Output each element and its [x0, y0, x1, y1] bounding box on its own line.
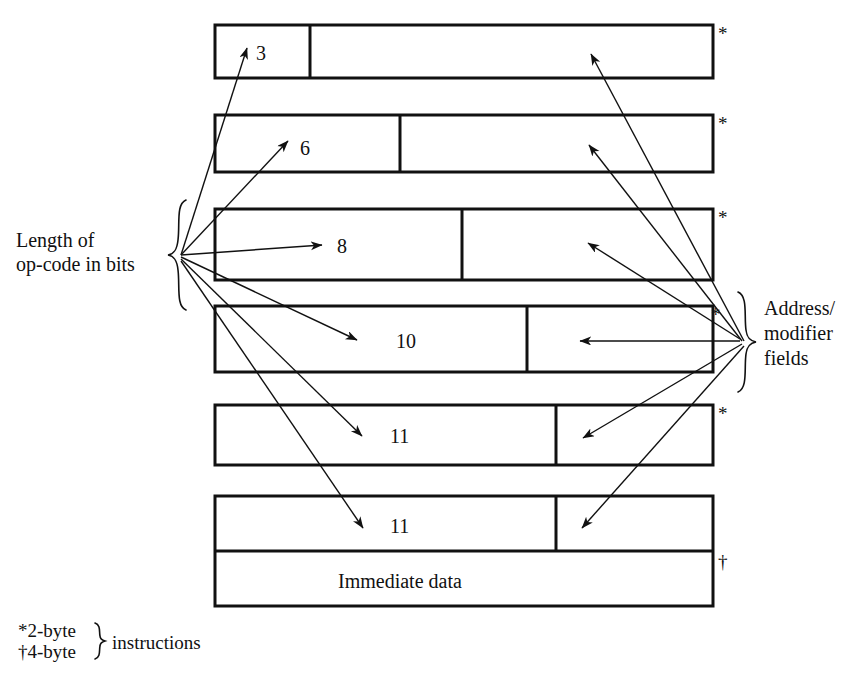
row-3-marker: *	[718, 207, 728, 228]
row-5-opcode-bits: 11	[390, 425, 409, 447]
opcode-length-label-line2: op-code in bits	[16, 252, 178, 276]
legend-two-byte-marker: *	[18, 620, 28, 641]
address-modifier-brace	[738, 292, 756, 392]
legend-instructions-label: instructions	[112, 632, 201, 654]
instruction-row-6: 11 Immediate data †	[215, 496, 728, 606]
instruction-row-2: 6 *	[215, 113, 728, 172]
legend-four-byte-marker: †	[18, 641, 28, 662]
address-modifier-label-line1: Address/	[764, 296, 862, 321]
row-3-box	[215, 209, 713, 280]
legend-two-byte-text: 2-byte	[28, 620, 77, 641]
row-2-marker: *	[718, 113, 728, 134]
row-6-immediate-data-label: Immediate data	[338, 570, 462, 592]
row-2-opcode-bits: 6	[300, 137, 310, 159]
instruction-row-5: 11 *	[215, 403, 728, 465]
row-3-opcode-bits: 8	[337, 235, 347, 257]
address-modifier-label-line2: modifier	[764, 321, 862, 346]
row-4-opcode-bits: 10	[396, 330, 416, 352]
legend-brace	[95, 623, 105, 659]
row-6-opcode-bits: 11	[390, 515, 409, 537]
address-modifier-label: Address/ modifier fields	[764, 296, 862, 370]
row-1-marker: *	[718, 23, 728, 44]
row-1-opcode-bits: 3	[256, 42, 266, 64]
legend-four-byte-line: †4-byte	[18, 641, 76, 662]
legend-two-byte-line: *2-byte	[18, 620, 76, 641]
instruction-row-1: 3 *	[215, 23, 728, 78]
legend-four-byte-text: 4-byte	[28, 641, 77, 662]
instruction-row-4: 10 *	[215, 304, 721, 372]
instruction-row-3: 8 *	[215, 207, 728, 280]
opcode-length-label: Length of op-code in bits	[16, 228, 178, 277]
diagram-canvas: 3 * 6 * 8 * 10 * 11 *	[0, 0, 863, 679]
row-1-box	[215, 25, 713, 78]
row-5-box	[215, 405, 713, 465]
row-5-marker: *	[718, 403, 728, 424]
leader-to-row-1-field	[591, 54, 744, 341]
legend-byte-lines: *2-byte †4-byte	[18, 620, 76, 663]
row-6-marker: †	[718, 551, 728, 572]
opcode-length-label-line1: Length of	[16, 228, 178, 252]
row-4-box	[215, 306, 713, 372]
instruction-format-diagram: 3 * 6 * 8 * 10 * 11 *	[0, 0, 863, 679]
address-modifier-label-line3: fields	[764, 346, 862, 371]
leader-to-row-6	[181, 261, 363, 528]
